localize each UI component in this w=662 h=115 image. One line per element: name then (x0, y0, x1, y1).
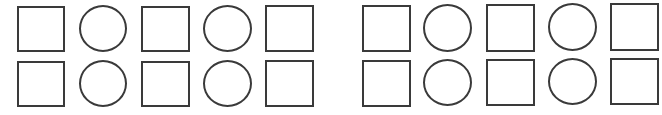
circle-shape (548, 3, 597, 51)
square-shape (141, 61, 190, 107)
square-shape (362, 5, 411, 52)
square-shape (17, 6, 65, 52)
circle-shape (548, 58, 597, 105)
circle-shape (423, 4, 472, 52)
square-shape (141, 6, 190, 52)
square-shape (17, 61, 65, 107)
circle-shape (203, 5, 252, 52)
square-shape (362, 60, 411, 107)
circle-shape (423, 59, 472, 106)
circle-shape (79, 5, 127, 52)
circle-shape (203, 60, 252, 107)
square-shape (486, 59, 535, 106)
square-shape (486, 4, 535, 52)
square-shape (610, 58, 659, 105)
square-shape (265, 60, 314, 107)
circle-shape (79, 60, 127, 107)
square-shape (265, 5, 314, 52)
square-shape (610, 3, 659, 51)
